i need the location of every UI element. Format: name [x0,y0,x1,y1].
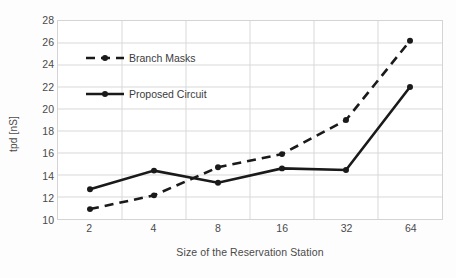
x-axis-tick: 64 [379,222,443,240]
data-point [279,165,285,171]
x-axis-title: Size of the Reservation Station [57,246,443,258]
y-axis-tick: 12 [28,192,54,204]
chart-legend: Branch MasksProposed Circuit [86,48,246,120]
y-axis-tick: 16 [28,147,54,159]
y-axis-tick: 26 [28,36,54,48]
data-point [215,164,221,170]
data-point [151,168,157,174]
y-axis-title: tpd [nS] [8,94,19,174]
data-point [151,192,157,198]
y-axis-tick: 24 [28,58,54,70]
y-axis-tick-labels: 28262422201816141210 [26,0,54,278]
x-axis-tick: 16 [250,222,314,240]
legend-swatch-solid-line-icon [86,88,124,100]
data-point [343,117,349,123]
legend-label: Proposed Circuit [129,88,207,100]
legend-swatch-dashed-line-icon [86,52,124,64]
legend-item: Branch Masks [86,48,246,68]
y-axis-tick: 18 [28,125,54,137]
data-point [343,167,349,173]
y-axis-tick: 22 [28,81,54,93]
y-axis-tick: 28 [28,14,54,26]
data-point [215,180,221,186]
data-point [87,186,93,192]
y-axis-tick: 20 [28,103,54,115]
legend-label: Branch Masks [129,52,196,64]
y-axis-tick: 10 [28,214,54,226]
chart-figure: tpd [nS] 28262422201816141210 248163264 … [0,0,456,278]
x-axis-tick: 4 [121,222,185,240]
data-point [407,84,413,90]
x-axis-tick: 32 [314,222,378,240]
legend-item: Proposed Circuit [86,84,246,104]
data-point [407,38,413,44]
x-axis-tick: 2 [57,222,121,240]
x-axis-tick-labels: 248163264 [57,222,443,240]
x-axis-tick: 8 [186,222,250,240]
y-axis-tick: 14 [28,170,54,182]
data-point [279,151,285,157]
data-point [87,206,93,212]
